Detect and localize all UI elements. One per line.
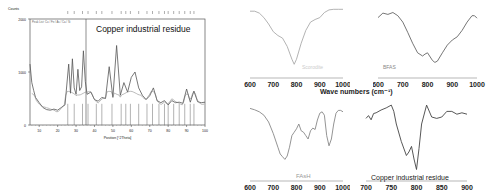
x-tick-label: 800 (422, 81, 434, 88)
legend-text: Peak List: Cu / Fe / As / Ca / Si (32, 20, 71, 24)
x-tick-label: 700 (360, 184, 372, 191)
y-tick-label: 2000 (18, 18, 26, 22)
series-label: Copper industrial residue (371, 174, 449, 182)
y-tick-label: 0 (24, 124, 26, 128)
scorodite-plot: 6007008009001000Scorodite (240, 0, 350, 95)
x-tick-label: 800 (411, 184, 423, 191)
x-tick-label: 30 (74, 129, 78, 133)
x-tick-label: 700 (267, 81, 279, 88)
x-tick-label: 1000 (469, 81, 485, 88)
series-label: BFAS (383, 64, 396, 70)
bfas-plot: 6007008009001000BFAS (373, 0, 493, 95)
spectrum-line (366, 105, 467, 169)
x-tick-label: 600 (244, 81, 256, 88)
x-tick-label: 800 (291, 81, 303, 88)
x-tick-label: 1000 (335, 81, 350, 88)
ir-chart-fash: 6007008009001000FAsH (240, 95, 350, 193)
ir-chart-scorodite: 6007008009001000Scorodite (240, 0, 350, 95)
x-tick-label: 40 (93, 129, 97, 133)
fash-plot: 6007008009001000FAsH (240, 95, 350, 193)
x-tick-label: 70 (148, 129, 152, 133)
x-axis-title: Position [°2Theta] (104, 136, 132, 140)
spectrum-line (250, 108, 343, 159)
ir-chart-copper-residue: 700750800850900Copper industrial residue (355, 95, 493, 193)
x-tick-label: 900 (314, 184, 326, 191)
x-tick-label: 50 (111, 129, 115, 133)
y-tick-label: 1000 (18, 71, 26, 75)
x-tick-label: 600 (373, 81, 384, 88)
x-tick-label: 700 (397, 81, 409, 88)
x-tick-label: 900 (446, 81, 458, 88)
spectrum-line (250, 9, 343, 64)
x-tick-label: 60 (129, 129, 133, 133)
x-tick-label: 900 (461, 184, 473, 191)
x-tick-label: 1000 (335, 184, 350, 191)
chart-title: Copper industrial residue (96, 24, 191, 34)
x-tick-label: 700 (267, 184, 279, 191)
x-tick-label: 20 (56, 129, 60, 133)
y-axis-title: Counts (8, 7, 19, 11)
wave-numbers-text: Wave numbers (cm⁻¹) (320, 88, 393, 95)
copper-residue-ir-plot: 700750800850900Copper industrial residue (355, 95, 493, 193)
plot-frame (30, 19, 205, 125)
x-tick-label: 750 (385, 184, 397, 191)
reference-marks-top (68, 11, 194, 14)
series-label: Scorodite (302, 64, 323, 70)
xrd-pattern-line (30, 46, 205, 111)
x-tick-label: 100 (202, 129, 208, 133)
xrd-noise (32, 91, 205, 112)
reference-sticks (68, 104, 194, 125)
x-tick-label: 90 (185, 129, 189, 133)
series-label: FAsH (296, 173, 311, 179)
xrd-plot: 200010000Counts102030405060708090100Posi… (0, 0, 215, 150)
x-tick-label: 80 (166, 129, 170, 133)
x-tick-label: 900 (314, 81, 326, 88)
spectrum-line (378, 13, 477, 63)
x-tick-label: 800 (291, 184, 303, 191)
x-tick-label: 600 (244, 184, 256, 191)
ir-chart-bfas: 6007008009001000BFAS (373, 0, 493, 95)
x-tick-label: 850 (436, 184, 448, 191)
x-tick-label: 10 (37, 129, 41, 133)
xrd-chart: 200010000Counts102030405060708090100Posi… (0, 0, 215, 150)
